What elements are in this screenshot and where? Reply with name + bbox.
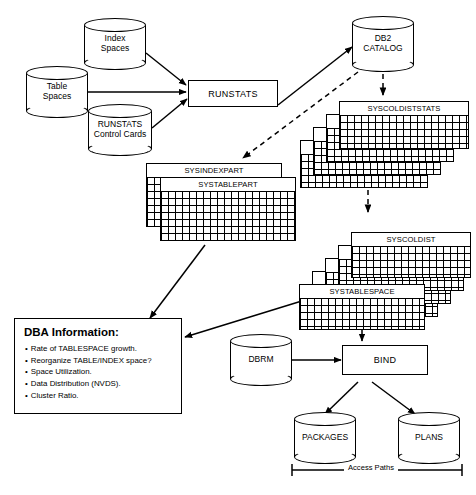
dba-item: Cluster Ratio. bbox=[25, 390, 181, 402]
dbrm-label: DBRM bbox=[230, 355, 292, 365]
cylinder-top bbox=[294, 412, 356, 426]
bind-label: BIND bbox=[374, 355, 397, 365]
cylinder-top bbox=[398, 412, 460, 426]
table-header: SYSTABLEPART bbox=[161, 178, 295, 192]
index-spaces-label: Index Spaces bbox=[84, 34, 146, 54]
arrow-parttables-to-dba bbox=[150, 245, 205, 318]
cylinder-bottom bbox=[230, 372, 292, 386]
arrow-bind-to-plans bbox=[372, 382, 415, 414]
table-spaces-label: Table Spaces bbox=[26, 82, 88, 102]
plans-label: PLANS bbox=[398, 433, 460, 443]
cylinder-top bbox=[26, 66, 88, 80]
table-grid bbox=[161, 191, 295, 240]
dbrm-cylinder: DBRM bbox=[230, 334, 292, 386]
table-header: SYSCOLDISTSTATS bbox=[340, 102, 468, 116]
table-grid bbox=[300, 298, 424, 329]
db2-catalog-label: DB2 CATALOG bbox=[352, 34, 414, 54]
dba-item: Rate of TABLESPACE growth. bbox=[25, 343, 181, 355]
runstats-process-box[interactable]: RUNSTATS bbox=[188, 80, 278, 107]
cylinder-top bbox=[88, 104, 152, 118]
cylinder-bottom bbox=[352, 58, 414, 72]
dba-information-list: Rate of TABLESPACE growth. Reorganize TA… bbox=[15, 343, 181, 401]
cylinder-bottom bbox=[26, 104, 88, 118]
dba-item: Reorganize TABLE/INDEX space? bbox=[25, 355, 181, 367]
dba-item: Data Distribution (NVDS). bbox=[25, 378, 181, 390]
catalog-table-systablespace-front[interactable]: SYSTABLESPACE bbox=[299, 284, 425, 330]
plans-cylinder: PLANS bbox=[398, 412, 460, 464]
cylinder-top bbox=[230, 334, 292, 348]
cylinder-bottom bbox=[294, 450, 356, 464]
bind-process-box[interactable]: BIND bbox=[342, 345, 428, 375]
arrow-index-to-runstats bbox=[146, 53, 186, 85]
table-spaces-cylinder: Table Spaces bbox=[26, 66, 88, 118]
table-header: SYSINDEXPART bbox=[147, 164, 281, 178]
packages-cylinder: PACKAGES bbox=[294, 412, 356, 464]
table-header: SYSCOLDIST bbox=[352, 233, 470, 247]
stats-table-syscoldiststats[interactable]: SYSCOLDISTSTATS bbox=[339, 101, 469, 149]
packages-label: PACKAGES bbox=[294, 433, 356, 443]
runstats-label: RUNSTATS bbox=[208, 89, 258, 99]
cylinder-bottom bbox=[398, 450, 460, 464]
table-grid bbox=[340, 115, 468, 148]
runstats-cards-label: RUNSTATS Control Cards bbox=[88, 120, 152, 140]
table-grid bbox=[352, 246, 470, 277]
catalog-table-syscoldist[interactable]: SYSCOLDIST bbox=[351, 232, 471, 278]
runstats-control-cards-cylinder: RUNSTATS Control Cards bbox=[88, 104, 152, 156]
arrow-runstats-to-catalog bbox=[278, 47, 352, 105]
cylinder-top bbox=[84, 18, 146, 32]
part-table-systablepart-front[interactable]: SYSTABLEPART bbox=[160, 177, 296, 241]
arrow-catalogtables-to-dba bbox=[185, 300, 305, 337]
table-header: SYSTABLESPACE bbox=[300, 285, 424, 299]
dba-item: Space Utilization. bbox=[25, 366, 181, 378]
db2-catalog-cylinder: DB2 CATALOG bbox=[352, 16, 414, 72]
dba-information-title: DBA Information: bbox=[24, 326, 181, 338]
cylinder-bottom bbox=[84, 56, 146, 70]
index-spaces-cylinder: Index Spaces bbox=[84, 18, 146, 70]
cylinder-top bbox=[352, 16, 414, 30]
arrow-cards-to-runstats bbox=[152, 99, 187, 128]
arrow-bind-to-packages bbox=[325, 382, 358, 414]
cylinder-bottom bbox=[88, 142, 152, 156]
dba-information-box: DBA Information: Rate of TABLESPACE grow… bbox=[14, 318, 182, 414]
access-paths-label: Access Paths bbox=[344, 463, 398, 472]
